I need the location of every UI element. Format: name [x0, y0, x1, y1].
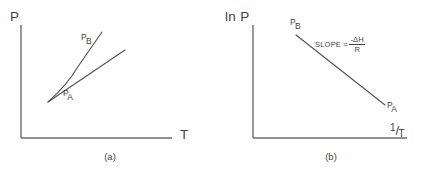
inv-t-numerator: 1 [390, 123, 396, 133]
panel-b-point-label-pa: PA [387, 101, 398, 110]
slope-equation-denominator: R [354, 45, 360, 53]
inv-t-denominator: T [398, 128, 404, 139]
panel-a-plot [0, 0, 221, 172]
panel-b-y-axis-label: ln P [225, 10, 249, 24]
panel-a-curve-steep [48, 32, 102, 102]
panel-b-slope-annotation: SLOPE = -ΔH R [315, 36, 365, 53]
slope-equation-numerator: -ΔH [349, 36, 365, 45]
figure-root: P T PB PA (a) ln P 1/T PB [0, 0, 442, 172]
panel-a-caption: (a) [90, 152, 130, 162]
panel-a-y-axis-label: P [10, 10, 19, 24]
slope-equation-lhs: SLOPE = [315, 41, 348, 49]
panel-a: P T PB PA (a) [0, 0, 221, 172]
slope-equation-fraction: -ΔH R [349, 36, 365, 53]
panel-a-x-axis-label: T [180, 128, 189, 142]
panel-b-point-label-pb: PB [290, 18, 302, 27]
panel-a-curve-shallow [48, 50, 125, 102]
panel-b-caption: (b) [311, 152, 351, 162]
panel-b-plot [221, 0, 442, 172]
panel-a-point-label-pa: PA [63, 89, 74, 98]
panel-a-point-label-pb: PB [81, 33, 93, 42]
panel-b-x-axis-label: 1/T [390, 124, 406, 137]
panel-b: ln P 1/T PB PA SLOPE = -ΔH R (b) [221, 0, 442, 172]
